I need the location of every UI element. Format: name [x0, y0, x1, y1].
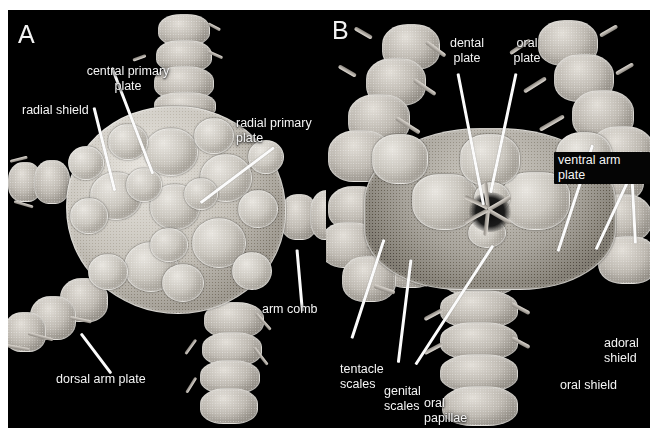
panel-b-ventral-view: B dental plate oral plate ventral arm pl… [326, 10, 650, 428]
panel-a-dorsal-view: A central primary plate radial shield ra… [8, 10, 326, 428]
label-oral-papillae: oral papillae [424, 396, 504, 425]
figure-micrograph: A central primary plate radial shield ra… [8, 10, 650, 428]
panel-letter-b: B [332, 18, 349, 43]
label-dorsal-arm-plate: dorsal arm plate [56, 372, 186, 387]
panel-letter-a: A [18, 22, 35, 47]
arm-dorsal-bottom [194, 302, 278, 428]
label-radial-primary-plate: radial primary plate [236, 116, 326, 145]
label-ventral-arm-plate: ventral arm plate [554, 152, 650, 184]
label-oral-plate: oral plate [502, 36, 552, 65]
label-oral-shield: oral shield [560, 378, 650, 393]
label-adoral-shield: adoral shield [604, 336, 650, 365]
label-arm-comb: arm comb [262, 302, 326, 317]
label-dental-plate: dental plate [438, 36, 496, 65]
label-central-primary-plate: central primary plate [66, 64, 190, 93]
label-radial-shield: radial shield [22, 103, 132, 118]
